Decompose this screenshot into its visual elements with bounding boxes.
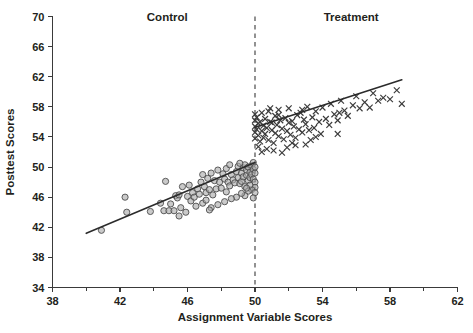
data-point-treatment <box>326 122 332 128</box>
y-tick-label: 54 <box>32 131 45 143</box>
data-point-control <box>222 199 228 205</box>
data-point-treatment <box>299 130 305 136</box>
y-tick-label: 38 <box>32 251 44 263</box>
x-tick-label: 58 <box>384 295 396 307</box>
chart-labels-group: ControlTreatmentAssignment Variable Scor… <box>4 11 379 322</box>
x-tick-label: 50 <box>249 295 261 307</box>
data-point-treatment <box>288 132 294 138</box>
data-point-treatment <box>367 105 373 111</box>
data-point-treatment <box>331 111 337 117</box>
data-point-control <box>206 207 212 213</box>
data-point-treatment <box>357 105 363 111</box>
data-point-control <box>200 171 206 177</box>
data-point-treatment <box>370 90 376 96</box>
data-point-treatment <box>276 133 282 139</box>
data-point-control <box>171 208 177 214</box>
data-point-control <box>252 170 258 176</box>
data-point-treatment <box>286 105 292 111</box>
regression-lines-group <box>86 80 402 234</box>
data-point-control <box>210 192 216 198</box>
data-point-treatment <box>362 99 368 105</box>
x-tick-label: 46 <box>181 295 193 307</box>
data-point-treatment <box>291 124 297 130</box>
data-point-treatment <box>264 146 270 152</box>
data-point-treatment <box>335 131 341 137</box>
data-point-control <box>147 208 153 214</box>
chart-canvas: 3842465054586234384246505458626670 Contr… <box>0 0 473 333</box>
data-point-treatment <box>313 134 319 140</box>
data-point-treatment <box>308 137 314 143</box>
data-point-control <box>162 178 168 184</box>
data-point-treatment <box>345 113 351 119</box>
y-tick-label: 34 <box>32 282 45 294</box>
data-point-treatment <box>293 135 299 141</box>
data-point-control <box>243 185 249 191</box>
data-point-treatment <box>309 114 315 120</box>
data-point-treatment <box>318 131 324 137</box>
x-tick-label: 62 <box>451 295 463 307</box>
data-point-control <box>168 201 174 207</box>
data-point-treatment <box>375 98 381 104</box>
data-point-treatment <box>380 95 386 101</box>
data-point-treatment <box>262 116 268 122</box>
data-point-control <box>215 202 221 208</box>
data-point-treatment <box>335 117 341 123</box>
data-point-treatment <box>293 142 299 148</box>
data-point-control <box>178 205 184 211</box>
x-axis-title: Assignment Variable Scores <box>178 311 333 323</box>
data-point-control <box>183 209 189 215</box>
y-tick-label: 46 <box>32 191 44 203</box>
y-tick-label: 50 <box>32 161 44 173</box>
data-point-control <box>228 196 234 202</box>
data-point-treatment <box>313 108 319 114</box>
data-point-control <box>252 164 258 170</box>
y-tick-label: 58 <box>32 101 44 113</box>
x-tick-label: 42 <box>114 295 126 307</box>
data-point-treatment <box>259 149 265 155</box>
x-tick-label: 38 <box>46 295 58 307</box>
treatment-regression-line <box>255 80 402 127</box>
data-point-treatment <box>259 110 265 116</box>
data-point-treatment <box>399 101 405 107</box>
data-point-control <box>176 213 182 219</box>
data-point-control <box>196 191 202 197</box>
data-point-control <box>179 184 185 190</box>
y-axis-title: Posttest Scores <box>4 109 16 196</box>
data-point-treatment <box>255 144 261 150</box>
control-label: Control <box>147 11 188 23</box>
data-point-treatment <box>289 140 295 146</box>
data-point-treatment <box>394 87 400 93</box>
data-point-control <box>186 182 192 188</box>
data-point-control <box>124 209 130 215</box>
treatment-label: Treatment <box>324 11 379 23</box>
y-tick-label: 42 <box>32 221 44 233</box>
data-point-treatment <box>276 107 282 113</box>
data-point-control <box>203 197 209 203</box>
data-point-treatment <box>350 102 356 108</box>
y-tick-label: 70 <box>32 11 44 23</box>
data-point-control <box>227 162 233 168</box>
data-point-control <box>193 203 199 209</box>
data-point-treatment <box>387 96 393 102</box>
data-point-control <box>250 195 256 201</box>
data-point-control <box>208 170 214 176</box>
x-tick-label: 54 <box>316 295 329 307</box>
data-point-treatment <box>271 148 277 154</box>
data-point-control <box>223 189 229 195</box>
data-point-treatment <box>279 150 285 156</box>
y-tick-label: 62 <box>32 71 44 83</box>
data-point-control <box>122 194 128 200</box>
data-point-treatment <box>271 140 277 146</box>
data-point-treatment <box>323 116 329 122</box>
axes-group: 3842465054586234384246505458626670 <box>32 11 463 308</box>
scatter-plot-figure: 3842465054586234384246505458626670 Contr… <box>0 0 473 333</box>
data-point-treatment <box>316 119 322 125</box>
data-point-control <box>237 160 243 166</box>
data-point-treatment <box>281 136 287 142</box>
y-tick-label: 66 <box>32 41 44 53</box>
